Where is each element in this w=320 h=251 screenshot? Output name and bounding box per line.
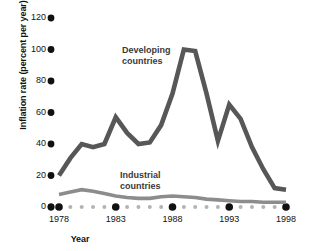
y-tick-dot (48, 172, 55, 179)
x-tick-dot-minor (250, 205, 254, 209)
series-label-industrial-line1: Industrial (120, 170, 161, 181)
series-label-developing-countries: Developing countries (122, 45, 171, 66)
x-tick-dot-minor (148, 205, 152, 209)
x-tick-dot-major (225, 203, 233, 211)
x-tick-dot-minor (91, 205, 95, 209)
inflation-rate-line-chart: Inflation rate (percent per year) Year 0… (0, 0, 320, 251)
x-tick-dot-minor (68, 205, 72, 209)
series-label-industrial-countries: Industrial countries (120, 170, 161, 191)
x-tick-dot-minor (205, 205, 209, 209)
x-tick-dot-minor (182, 205, 186, 209)
x-tick-dot-major (55, 203, 63, 211)
series-label-industrial-line2: countries (120, 181, 161, 192)
y-tick-dot (48, 109, 55, 116)
plot-area (0, 0, 320, 251)
x-tick-dot-major (112, 203, 120, 211)
y-tick-dot (48, 15, 55, 22)
y-axis-major-ticks (48, 15, 55, 211)
x-tick-dot-minor (239, 205, 243, 209)
series-label-developing-line2: countries (122, 56, 171, 67)
y-tick-dot (48, 78, 55, 85)
x-tick-dot-minor (80, 205, 84, 209)
x-tick-dot-minor (159, 205, 163, 209)
series-line-developing-countries (59, 50, 286, 190)
y-tick-dot (48, 141, 55, 148)
x-tick-dot-minor (273, 205, 277, 209)
series-line-industrial-countries (59, 190, 286, 203)
series-lines (59, 50, 286, 203)
x-tick-dot-minor (136, 205, 140, 209)
x-tick-dot-minor (216, 205, 220, 209)
x-tick-dot-minor (261, 205, 265, 209)
y-tick-dot (48, 46, 55, 53)
y-tick-dot (48, 204, 55, 211)
x-tick-dot-major (169, 203, 177, 211)
series-label-developing-line1: Developing (122, 45, 171, 56)
x-tick-dot-minor (102, 205, 106, 209)
x-tick-dot-major (282, 203, 290, 211)
x-tick-dot-minor (193, 205, 197, 209)
x-tick-dot-minor (125, 205, 129, 209)
